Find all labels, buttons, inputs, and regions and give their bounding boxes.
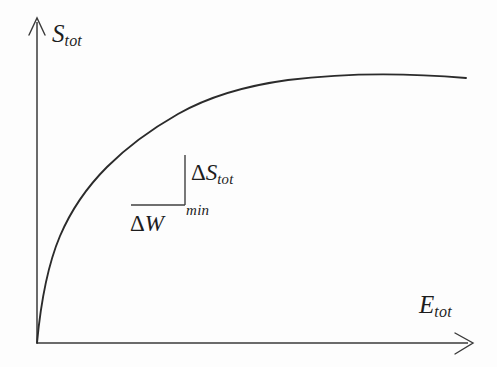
y-axis-label-sub: tot	[65, 32, 83, 49]
x-axis-label: Etot	[419, 292, 452, 317]
delta-s-tot-var: S	[206, 160, 218, 185]
entropy-curve	[37, 74, 466, 343]
delta-s-tot-sub: tot	[217, 171, 233, 187]
delta-symbol-icon: Δ	[130, 211, 145, 236]
delta-w-label: ΔW	[130, 212, 164, 235]
figure-canvas: Stot Etot ΔStot ΔW min	[0, 0, 497, 367]
y-axis-label-var: S	[52, 20, 65, 47]
delta-w-var: W	[145, 211, 164, 236]
delta-symbol-icon: Δ	[191, 160, 206, 185]
min-subscript-label: min	[186, 203, 209, 218]
y-axis-label: Stot	[52, 21, 82, 46]
delta-s-tot-label: ΔStot	[191, 161, 233, 184]
x-axis-label-sub: tot	[434, 303, 452, 320]
x-axis-label-var: E	[419, 291, 434, 318]
